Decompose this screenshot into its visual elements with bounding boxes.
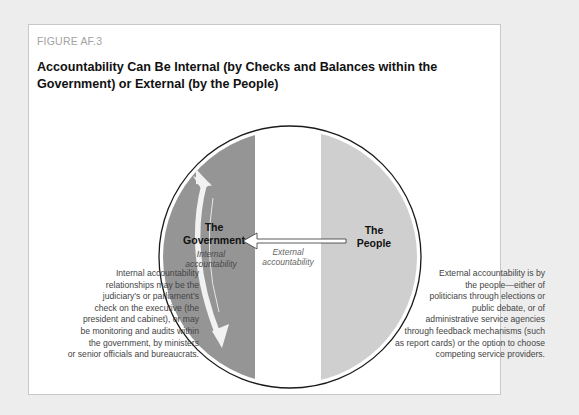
external-description-line: politicians through elections or	[395, 291, 545, 303]
internal-description-line: be monitoring and audits within	[68, 326, 199, 338]
external-description-line: competing service providers.	[395, 349, 545, 361]
internal-description-line: president and cabinet), or may	[68, 314, 199, 326]
people-label-2: People	[357, 237, 392, 249]
people-label: The	[365, 224, 384, 236]
external-description: External accountability is by the people…	[395, 268, 545, 361]
external-description-line: through feedback mechanisms (such	[395, 326, 545, 338]
internal-description-line: the government, by ministers	[68, 338, 199, 350]
external-description-line: public debate, or of	[395, 303, 545, 315]
government-label: The	[205, 221, 224, 233]
government-label-2: Government	[183, 234, 245, 246]
external-description-line: External accountability is by	[395, 268, 545, 280]
external-label: External	[272, 247, 304, 257]
internal-description-line: check on the executive (the	[68, 303, 199, 315]
internal-description-line: judiciary’s or parliament’s	[68, 291, 199, 303]
external-label-2: accountability	[262, 257, 314, 267]
internal-description: Internal accountability relationships ma…	[68, 268, 199, 361]
external-description-line: as report cards) or the option to choose	[395, 338, 545, 350]
internal-label: Internal	[197, 249, 226, 259]
internal-description-line: Internal accountability	[68, 268, 199, 280]
internal-description-line: relationships may be the	[68, 280, 199, 292]
external-description-line: the people—either of	[395, 280, 545, 292]
internal-description-line: or senior officials and bureaucrats.	[68, 349, 199, 361]
external-description-line: administrative service agencies	[395, 314, 545, 326]
